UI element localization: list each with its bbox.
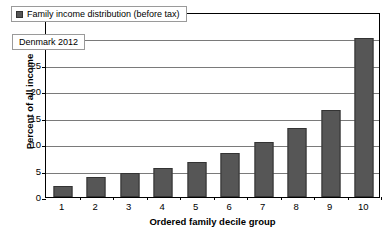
x-axis-tick-mark — [314, 197, 315, 200]
y-axis-tick-label: 0 — [17, 193, 41, 203]
x-axis-tick-mark — [247, 197, 248, 200]
annotation-label: Denmark 2012 — [12, 34, 85, 50]
bar — [355, 38, 374, 197]
bar — [187, 162, 206, 197]
bar-cell — [247, 14, 281, 197]
x-axis-tick-mark — [348, 197, 349, 200]
y-axis-tick-label: 10 — [17, 140, 41, 150]
bar — [87, 177, 106, 197]
bar-cell — [314, 14, 348, 197]
bar-cell — [147, 14, 181, 197]
chart-container: Percent of all income 05101520253035 123… — [0, 0, 392, 250]
bar-cell — [214, 14, 248, 197]
bar-cell — [348, 14, 382, 197]
y-axis-tick-label: 20 — [17, 87, 41, 97]
bar — [221, 153, 240, 197]
bar — [53, 186, 72, 197]
bar — [154, 168, 173, 197]
x-axis-tick-label: 8 — [280, 201, 314, 212]
bar — [321, 110, 340, 197]
legend-label: Family income distribution (before tax) — [27, 9, 180, 19]
chart-legend: Family income distribution (before tax) — [11, 6, 187, 22]
bar-series — [46, 14, 379, 197]
y-axis-tick-label: 25 — [17, 61, 41, 71]
x-axis-tick-mark — [80, 197, 81, 200]
bar — [254, 142, 273, 198]
plot-area — [45, 13, 380, 198]
bar — [120, 173, 139, 197]
x-axis-tick-label: 9 — [313, 201, 347, 212]
x-axis-tick-mark — [113, 197, 114, 200]
bar-cell — [180, 14, 214, 197]
x-axis-tick-label: 1 — [45, 201, 79, 212]
x-axis-tick-label: 4 — [146, 201, 180, 212]
x-axis-tick-label: 7 — [246, 201, 280, 212]
x-axis-tick-mark — [147, 197, 148, 200]
legend-swatch-icon — [16, 11, 23, 18]
x-axis-tick-label: 10 — [347, 201, 381, 212]
bar-cell — [281, 14, 315, 197]
y-axis-tick-label: 5 — [17, 167, 41, 177]
x-axis-tick-label: 6 — [213, 201, 247, 212]
x-axis-tick-label: 5 — [179, 201, 213, 212]
y-axis-tick-label: 15 — [17, 114, 41, 124]
x-axis-tick-mark — [281, 197, 282, 200]
y-axis-tick-mark — [42, 199, 46, 200]
bar — [288, 128, 307, 197]
bar-cell — [113, 14, 147, 197]
x-axis-tick-mark — [214, 197, 215, 200]
x-axis-tick-labels: 12345678910 — [45, 201, 380, 215]
x-axis-tick-label: 3 — [112, 201, 146, 212]
x-axis-title: Ordered family decile group — [45, 216, 380, 227]
x-axis-tick-mark — [180, 197, 181, 200]
x-axis-tick-label: 2 — [79, 201, 113, 212]
x-axis-tick-mark — [381, 197, 382, 200]
